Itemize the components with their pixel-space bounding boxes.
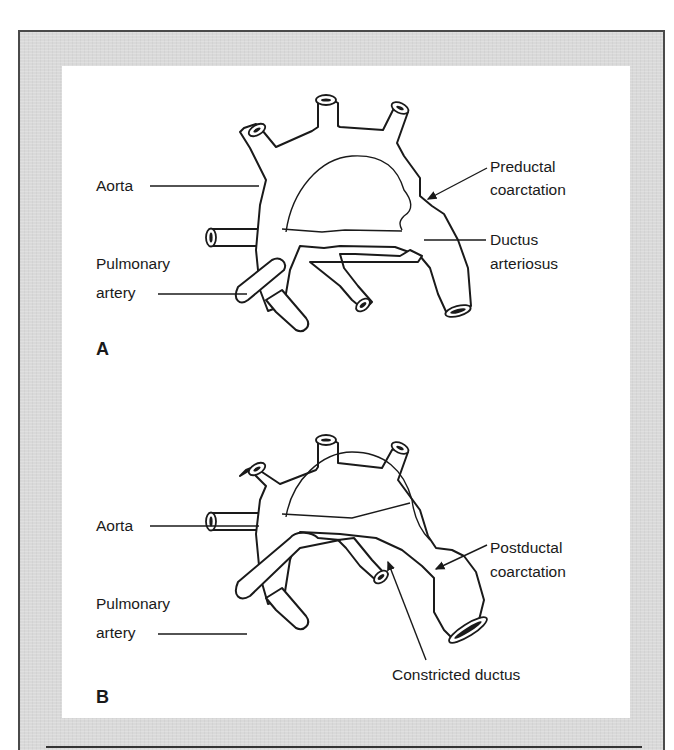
pulmonary-left-branch-a	[206, 229, 262, 247]
coarctation-diagram: Aorta Pulmonary artery Preductal coarcta…	[0, 0, 674, 750]
label-coarctation-a-1: Preductal	[490, 158, 555, 175]
pulmonary-lower-branch-a	[266, 290, 308, 331]
panel-b: Aorta Pulmonary artery Postductal coarct…	[96, 435, 566, 707]
pulmonary-lower-branch-b	[266, 588, 308, 629]
label-aorta-b: Aorta	[96, 517, 133, 534]
label-ductus-a-1: Ductus	[490, 231, 538, 248]
label-coarctation-b-1: Postductal	[490, 539, 562, 556]
label-pulmonary-b-2: artery	[96, 624, 136, 641]
label-aorta-a: Aorta	[96, 177, 133, 194]
label-ductus-a-2: arteriosus	[490, 255, 558, 272]
label-ductus-b: Constricted ductus	[392, 666, 521, 683]
panel-a: Aorta Pulmonary artery Preductal coarcta…	[96, 95, 566, 359]
label-pulmonary-a-2: artery	[96, 284, 136, 301]
label-pulmonary-a-1: Pulmonary	[96, 255, 170, 272]
pulmonary-left-branch-b	[206, 513, 262, 531]
label-coarctation-b-2: coarctation	[490, 563, 566, 580]
part-label-a: A	[96, 339, 109, 359]
coarctation-arrow-a	[428, 168, 487, 199]
label-pulmonary-b-1: Pulmonary	[96, 595, 170, 612]
label-coarctation-a-2: coarctation	[490, 181, 566, 198]
ductus-arrow-b	[388, 562, 426, 660]
part-label-b: B	[96, 687, 109, 707]
